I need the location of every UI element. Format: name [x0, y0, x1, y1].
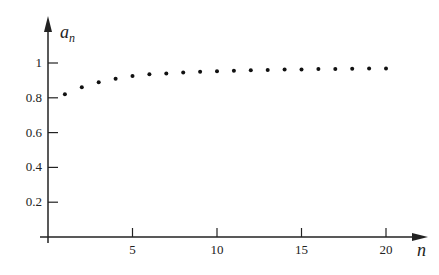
data-point	[266, 68, 270, 72]
x-tick-label: 20	[380, 242, 393, 257]
data-point	[333, 67, 337, 71]
x-axis-title: n	[417, 240, 426, 260]
data-point	[198, 70, 202, 74]
data-point	[80, 85, 84, 89]
data-points	[63, 66, 388, 96]
y-tick-label: 0.2	[26, 194, 42, 209]
y-tick-label: 0.8	[26, 90, 42, 105]
data-point	[97, 80, 101, 84]
y-tick-label: 0.6	[26, 125, 43, 140]
data-point	[283, 68, 287, 72]
data-point	[215, 69, 219, 73]
data-point	[164, 71, 168, 75]
data-point	[232, 69, 236, 73]
data-point	[147, 72, 151, 76]
x-tick-label: 15	[295, 242, 308, 257]
y-tick-label: 0.4	[26, 159, 43, 174]
y-tick-label: 1	[36, 55, 43, 70]
data-point	[249, 68, 253, 72]
data-point	[131, 74, 135, 78]
y-axis-arrow-icon	[44, 16, 52, 32]
data-point	[316, 67, 320, 71]
data-point	[63, 92, 67, 96]
y-axis-title: an	[60, 22, 75, 45]
data-point	[367, 67, 371, 71]
x-tick-label: 5	[129, 242, 136, 257]
data-point	[384, 66, 388, 70]
data-point	[114, 77, 118, 81]
data-point	[181, 71, 185, 75]
x-tick-label: 10	[211, 242, 224, 257]
sequence-chart: 0.20.40.60.815101520ann	[0, 0, 439, 275]
data-point	[300, 67, 304, 71]
data-point	[350, 67, 354, 71]
axes: 0.20.40.60.815101520ann	[26, 16, 428, 260]
